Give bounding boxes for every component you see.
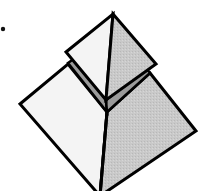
pyramid-illustration — [0, 0, 201, 191]
bullet-dot — [1, 27, 5, 31]
